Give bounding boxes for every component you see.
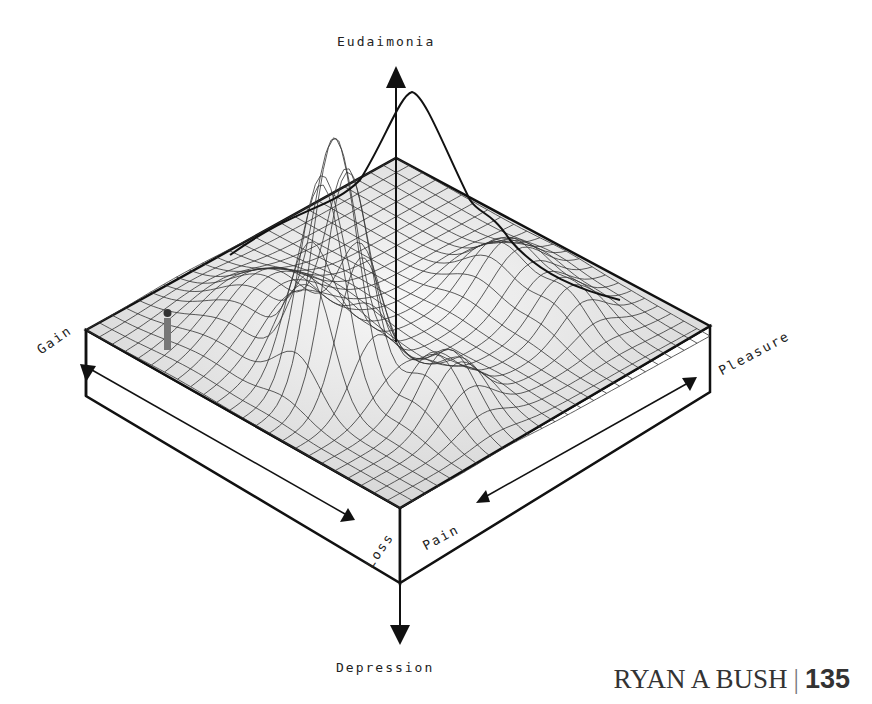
footer-separator: | (794, 664, 799, 694)
author-name: RYAN A BUSH (613, 664, 787, 694)
label-eudaimonia: Eudaimonia (337, 34, 435, 49)
arrow-down-icon (390, 625, 410, 645)
label-depression: Depression (336, 660, 434, 675)
page-number: 135 (805, 664, 850, 694)
arrow-up-icon (386, 66, 406, 88)
page-footer: RYAN A BUSH|135 (613, 664, 850, 695)
person-figure-icon (164, 309, 172, 350)
